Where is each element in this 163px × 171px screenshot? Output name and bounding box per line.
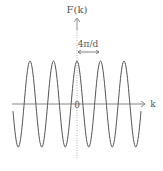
period-label: 4π/d <box>78 39 99 49</box>
y-axis-arrow-icon <box>74 18 80 30</box>
period-double-arrow-icon <box>78 50 99 54</box>
diagram-canvas: F(k) 4π/d 0 k <box>0 0 163 171</box>
x-axis-label: k <box>150 99 156 109</box>
y-axis-label: F(k) <box>67 4 88 15</box>
origin-label: 0 <box>74 100 80 110</box>
